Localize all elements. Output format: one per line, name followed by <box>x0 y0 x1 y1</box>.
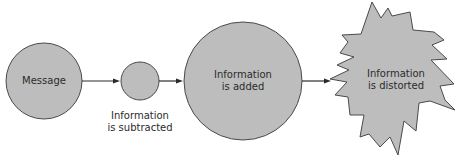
subtracted-label: Information is subtracted <box>107 110 172 134</box>
arrow-subtracted-to-added <box>159 79 183 84</box>
subtracted-label-line-1: Information <box>107 110 172 122</box>
added-label: Information is added <box>214 69 272 93</box>
message-label: Message <box>22 75 66 87</box>
distorted-label: Information is distorted <box>367 68 425 92</box>
added-label-line-1: Information <box>214 69 272 81</box>
message-label-line-1: Message <box>22 75 66 87</box>
subtracted-label-line-2: is subtracted <box>107 122 172 134</box>
subtracted-circle <box>121 62 159 100</box>
distorted-label-line-2: is distorted <box>367 80 425 92</box>
added-label-line-2: is added <box>214 81 272 93</box>
arrow-message-to-subtracted <box>82 79 120 84</box>
distorted-label-line-1: Information <box>367 68 425 80</box>
arrow-added-to-distorted <box>302 79 331 84</box>
